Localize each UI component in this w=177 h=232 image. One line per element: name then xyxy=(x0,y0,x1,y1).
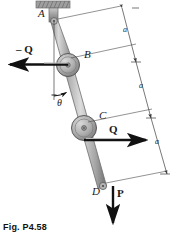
label-force-p: P xyxy=(117,188,124,199)
label-force-q: Q xyxy=(109,124,118,135)
force-arrow-q xyxy=(84,139,146,141)
force-arrow-minus-q xyxy=(10,63,68,65)
mechanism-diagram xyxy=(0,0,177,232)
figure-container: A B C D – Q Q P θ a a a Fig. P4.58 xyxy=(0,0,177,232)
label-force-minus-q: – Q xyxy=(16,44,33,55)
dimension-chain xyxy=(122,8,170,174)
label-dimension-a-2: a xyxy=(139,82,143,90)
label-point-b: B xyxy=(84,49,91,60)
figure-caption: Fig. P4.58 xyxy=(3,222,47,232)
label-angle-theta: θ xyxy=(57,98,62,108)
pulley-c xyxy=(72,116,97,141)
label-dimension-a-1: a xyxy=(123,26,127,34)
label-dimension-a-3: a xyxy=(155,138,159,146)
label-point-a: A xyxy=(38,8,45,19)
pin-d xyxy=(99,182,106,189)
label-point-c: C xyxy=(99,110,106,121)
label-point-d: D xyxy=(92,186,100,197)
